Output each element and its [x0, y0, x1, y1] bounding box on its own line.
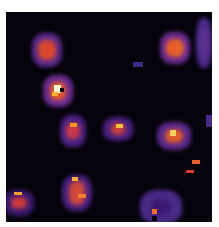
hotspot-pixel [170, 130, 176, 136]
hotspot-pixel [186, 170, 194, 173]
bright-spot-core [38, 40, 56, 60]
hotspot-pixel [133, 62, 143, 67]
bright-spot-core [69, 181, 85, 205]
bright-spot-core [11, 197, 27, 209]
hotspot-pixel [152, 216, 157, 221]
bright-spot-core [166, 39, 184, 57]
bright-spot-core [199, 28, 209, 58]
hotspot-pixel [60, 88, 64, 92]
hotspot-pixel [72, 177, 78, 181]
hotspot-pixel [52, 92, 58, 96]
hotspot-pixel [152, 209, 157, 214]
hotspot-pixel [192, 160, 200, 164]
hotspot-pixel [116, 124, 123, 128]
heatmap-image [6, 12, 212, 222]
hotspot-pixel [14, 192, 22, 195]
hotspot-pixel [78, 194, 86, 198]
hotspot-pixel [206, 115, 212, 127]
hotspot-pixel [70, 123, 77, 127]
